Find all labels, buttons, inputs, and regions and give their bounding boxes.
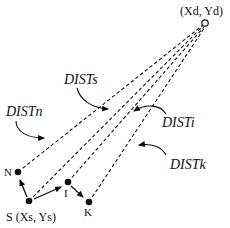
node-k: [86, 199, 93, 206]
distn-pointer-arrow: [16, 121, 44, 138]
dists-pointer-arrow: [77, 88, 108, 109]
node-s: [26, 198, 33, 205]
distn-line: [18, 25, 203, 172]
node-i-label: I: [64, 187, 68, 199]
distk-label: DISTk: [169, 157, 207, 172]
node-n-label: N: [4, 166, 12, 178]
s-to-n-arrow: [20, 180, 27, 197]
routing-distance-diagram: (Xd, Yd) N S (Xs, Ys) I K DISTn DISTs DI…: [0, 0, 230, 228]
dists-line: [29, 26, 203, 201]
node-n: [15, 169, 22, 176]
node-i: [65, 179, 72, 186]
node-s-label: S (Xs, Ys): [6, 210, 56, 224]
disti-label: DISTi: [161, 115, 195, 130]
i-to-k-arrow: [71, 186, 83, 197]
destination-label: (Xd, Yd): [180, 4, 223, 18]
s-to-i-arrow: [34, 187, 61, 199]
distk-pointer-arrow: [139, 144, 166, 155]
distn-label: DISTn: [5, 104, 43, 119]
dists-label: DISTs: [63, 72, 98, 87]
node-k-label: K: [84, 206, 92, 218]
destination-node: [202, 20, 208, 26]
